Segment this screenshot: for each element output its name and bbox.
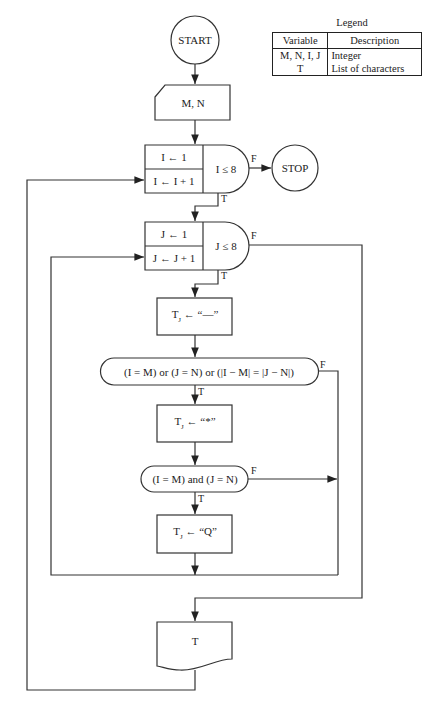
output-label: T	[192, 635, 199, 647]
flowchart-lines	[0, 0, 426, 719]
inner-step-label: J ← J + 1	[153, 252, 195, 264]
legend-header-variable: Variable	[273, 33, 328, 49]
decision-1-true-label: T	[198, 386, 204, 397]
legend-variable: M, N, I, J	[273, 49, 328, 63]
inner-condition-label: J ≤ 8	[215, 240, 236, 252]
assign-q-label: TJ ← “Q”	[173, 525, 217, 540]
outer-step-label: I ← I + 1	[153, 175, 194, 187]
decision-2-false-label: F	[251, 465, 257, 476]
legend: Legend Variable Description M, N, I, J I…	[272, 17, 422, 76]
legend-description: Integer	[328, 49, 422, 63]
inner-false-label: F	[251, 230, 257, 241]
outer-true-label: T	[221, 193, 227, 204]
decision-2-label: (I = M) and (J = N)	[152, 473, 237, 485]
inner-init-label: J ← 1	[161, 228, 187, 240]
outer-false-label: F	[251, 153, 257, 164]
stop-label: STOP	[282, 162, 309, 174]
legend-header-description: Description	[328, 33, 422, 49]
decision-1-false-label: F	[320, 359, 326, 370]
decision-1-label: (I = M) or (J = N) or (|I − M| = |J − N|…	[124, 366, 294, 378]
start-label: START	[178, 34, 211, 46]
legend-variable: T	[273, 62, 328, 76]
input-label: M, N	[181, 97, 204, 109]
outer-condition-label: I ≤ 8	[216, 163, 237, 175]
outer-init-label: I ← 1	[161, 151, 187, 163]
assign-star-label: TJ ← “*”	[174, 415, 215, 430]
assign-dash-label: TJ ← “—”	[172, 308, 219, 323]
decision-2-true-label: T	[198, 493, 204, 504]
legend-description: List of characters	[328, 62, 422, 76]
legend-table: Variable Description M, N, I, J Integer …	[272, 32, 422, 76]
inner-true-label: T	[221, 270, 227, 281]
legend-title: Legend	[282, 17, 422, 28]
